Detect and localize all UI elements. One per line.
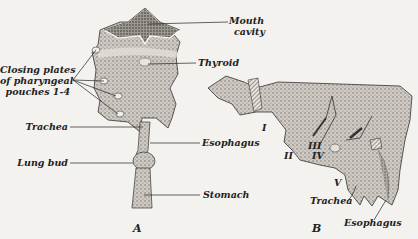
arch-numeral-1: I [262, 122, 266, 133]
label-stomach: Stomach [203, 190, 249, 200]
arch-numeral-2: II [284, 150, 293, 161]
label-thyroid: Thyroid [198, 58, 239, 68]
label-esophagus-a: Esophagus [202, 138, 260, 148]
label-closing-plates-line1: Closing plates [0, 65, 70, 75]
illustration [0, 0, 418, 239]
label-trachea-a: Trachea [0, 122, 68, 132]
label-lung-bud: Lung bud [0, 158, 68, 168]
pharyngeal-gut-figure: Mouth cavity Thyroid Closing plates of p… [0, 0, 418, 239]
label-trachea-b: Trachea [310, 196, 352, 206]
panel-label-a: A [133, 222, 142, 235]
label-mouth-cavity-line1: Mouth [229, 16, 264, 26]
arch-numeral-4: IV [312, 150, 324, 161]
label-mouth-cavity-line2: cavity [234, 27, 265, 37]
label-closing-plates-line2: of pharyngeal [0, 76, 70, 86]
panel-label-b: B [312, 222, 321, 235]
arch-numeral-5: V [334, 177, 341, 188]
label-esophagus-b: Esophagus [344, 218, 402, 228]
panel-a-drawing [92, 8, 180, 208]
label-closing-plates-line3: pouches 1-4 [0, 87, 70, 97]
